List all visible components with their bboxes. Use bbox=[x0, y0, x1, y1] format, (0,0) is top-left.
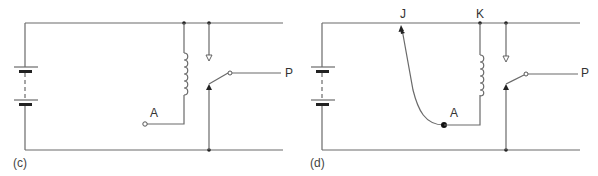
circuit-diagram bbox=[0, 0, 598, 176]
terminal-a-icon bbox=[143, 122, 147, 126]
panel-c bbox=[14, 21, 283, 152]
terminal-a-label: A bbox=[450, 107, 458, 119]
terminal-a-label: A bbox=[150, 107, 158, 119]
panel-c-caption: (c) bbox=[13, 157, 27, 169]
relay-switch-icon bbox=[206, 21, 281, 152]
relay-switch-icon bbox=[503, 21, 578, 152]
flying-lead-icon bbox=[399, 25, 481, 128]
output-p-label: P bbox=[581, 67, 589, 79]
junction-k-label: K bbox=[476, 8, 484, 20]
output-p-label: P bbox=[285, 67, 293, 79]
relay-coil-icon bbox=[478, 21, 484, 96]
panel-d bbox=[311, 21, 580, 152]
battery-icon bbox=[14, 23, 38, 150]
battery-icon bbox=[311, 23, 335, 150]
panel-d-caption: (d) bbox=[310, 157, 325, 169]
junction-j-label: J bbox=[400, 8, 406, 20]
